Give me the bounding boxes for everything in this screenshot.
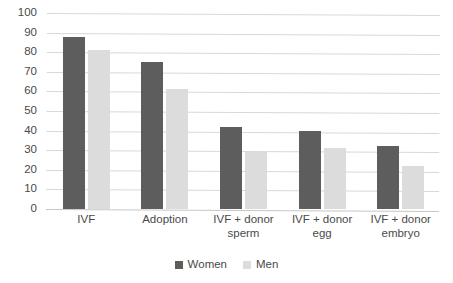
y-tick-label: 20	[24, 164, 37, 176]
bar-women-0[interactable]	[63, 37, 85, 209]
bar-group	[204, 13, 283, 209]
bar-women-3[interactable]	[299, 131, 321, 209]
x-axis-tick-labels: IVFAdoptionIVF + donor spermIVF + donor …	[47, 213, 440, 255]
x-tick-label: IVF	[47, 213, 126, 227]
y-tick-label: 70	[24, 66, 37, 78]
bar-women-2[interactable]	[220, 127, 242, 209]
legend-label: Women	[188, 259, 227, 271]
legend-entry-women[interactable]: Women	[175, 259, 227, 271]
plot-area	[47, 13, 440, 209]
y-tick-label: 100	[18, 7, 37, 19]
x-tick-label: IVF + donor embryo	[361, 213, 440, 240]
bar-women-4[interactable]	[377, 146, 399, 209]
bar-men-2[interactable]	[245, 152, 267, 209]
legend-entry-men[interactable]: Men	[243, 259, 278, 271]
x-tick-label: IVF + donor sperm	[204, 213, 283, 240]
y-tick-label: 0	[31, 203, 37, 215]
chart-legend: WomenMen	[0, 259, 453, 271]
y-tick-label: 10	[24, 184, 37, 196]
gridline-0	[46, 209, 439, 212]
x-tick-label: Adoption	[126, 213, 205, 227]
bar-men-1[interactable]	[166, 89, 188, 209]
y-tick-label: 80	[24, 46, 37, 58]
legend-swatch-icon	[243, 261, 251, 269]
bars-layer	[47, 13, 440, 209]
bar-group	[126, 13, 205, 209]
x-tick-label: IVF + donor egg	[283, 213, 362, 240]
bar-men-3[interactable]	[324, 148, 346, 209]
y-axis-tick-labels: 1009080706050403020100	[0, 0, 47, 222]
bar-men-4[interactable]	[402, 166, 424, 209]
bar-men-0[interactable]	[88, 50, 110, 209]
legend-label: Men	[256, 259, 278, 271]
y-tick-label: 90	[24, 27, 37, 39]
y-tick-label: 30	[24, 144, 37, 156]
legend-swatch-icon	[175, 261, 183, 269]
bar-group	[361, 13, 440, 209]
bar-group	[47, 13, 126, 209]
y-tick-label: 50	[24, 105, 37, 117]
y-tick-label: 40	[24, 125, 37, 137]
bar-group	[283, 13, 362, 209]
bar-chart: 1009080706050403020100 IVFAdoptionIVF + …	[0, 0, 453, 283]
bar-women-1[interactable]	[141, 62, 163, 209]
y-tick-label: 60	[24, 86, 37, 98]
